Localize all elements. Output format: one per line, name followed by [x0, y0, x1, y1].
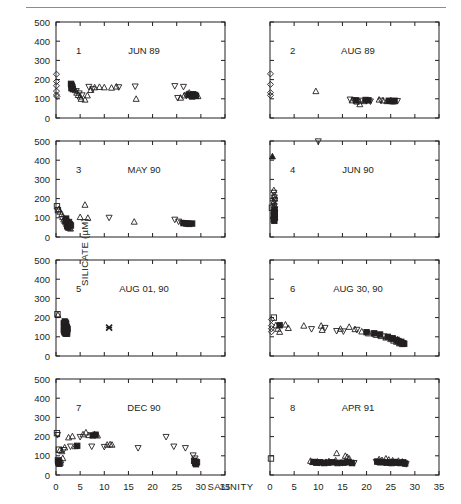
data-point-marker [135, 446, 141, 452]
data-point-marker [106, 325, 112, 331]
y-tick-label: 0 [45, 232, 50, 243]
y-tick-label: 200 [34, 312, 50, 323]
data-point-marker [309, 327, 315, 333]
panel-frame [270, 141, 439, 237]
data-point-marker [93, 432, 98, 437]
y-tick-label: 0 [45, 113, 50, 124]
y-tick-label: 300 [34, 55, 50, 66]
panel-title: DEC 90 [127, 402, 160, 413]
y-axis-title: SILICATE (µM) [79, 152, 90, 352]
data-point-marker [132, 84, 138, 90]
data-point-marker [268, 456, 273, 461]
panel-number: 8 [290, 402, 295, 413]
data-point-marker [182, 446, 188, 452]
data-point-marker [353, 98, 358, 103]
panel-title: JUN 90 [342, 164, 374, 175]
panel-number: 4 [290, 164, 295, 175]
data-point-marker [180, 84, 186, 90]
data-point-marker [101, 84, 107, 90]
data-point-marker [285, 325, 291, 331]
panel-title: JUN 89 [128, 45, 160, 56]
data-point-marker [372, 331, 377, 336]
data-point-marker [301, 323, 307, 329]
data-point-marker [68, 223, 73, 228]
data-point-marker [277, 323, 282, 328]
panel-frame [270, 260, 439, 356]
data-point-marker [394, 337, 399, 342]
y-tick-label: 300 [34, 293, 50, 304]
data-point-marker [364, 329, 369, 334]
data-point-marker [63, 216, 68, 221]
panel-title: AUG 30, 90 [333, 283, 383, 294]
y-tick-label: 200 [34, 193, 50, 204]
data-point-marker [403, 461, 408, 466]
y-tick-label: 0 [45, 351, 50, 362]
panel-2: 2AUG 89 [267, 22, 439, 118]
panel-title: MAY 90 [128, 164, 161, 175]
y-tick-label: 200 [34, 74, 50, 85]
silicate-salinity-figure: SILICATE (µM) SALINITY 01002003004005001… [0, 0, 461, 504]
data-point-marker [272, 218, 277, 223]
data-point-marker [194, 460, 199, 465]
data-point-marker [106, 215, 112, 221]
y-tick-label: 300 [34, 174, 50, 185]
panel-8: 051015202530358APR 91 [267, 379, 444, 492]
data-point-marker [271, 211, 276, 216]
y-tick-label: 400 [34, 36, 50, 47]
data-point-marker [62, 319, 67, 324]
y-tick-label: 100 [34, 93, 50, 104]
panel-7: 0510152025303501002003004005007DEC 90 [34, 374, 230, 493]
panel-number: 7 [76, 402, 81, 413]
y-tick-label: 100 [34, 212, 50, 223]
y-tick-label: 200 [34, 431, 50, 442]
panel-number: 6 [290, 283, 295, 294]
y-tick-label: 500 [34, 17, 50, 28]
panel-number: 2 [290, 45, 295, 56]
panel-4: 4JUN 90 [269, 139, 439, 237]
data-point-marker [163, 434, 169, 440]
data-point-marker [75, 443, 80, 448]
panel-6: 6AUG 30, 90 [268, 260, 439, 356]
y-tick-label: 400 [34, 155, 50, 166]
data-point-marker [335, 460, 340, 465]
y-tick-label: 100 [34, 450, 50, 461]
panel-3: 01002003004005003MAY 90 [34, 136, 225, 243]
data-point-marker [334, 450, 340, 456]
data-point-marker [69, 433, 75, 439]
panel-frame [56, 22, 225, 118]
data-point-marker [366, 98, 371, 103]
data-point-marker [64, 330, 69, 335]
data-point-marker [133, 96, 139, 102]
y-tick-label: 500 [34, 136, 50, 147]
y-tick-label: 300 [34, 412, 50, 423]
panel-1: 01002003004005001JUN 89 [34, 17, 225, 124]
data-point-marker [349, 460, 354, 465]
data-point-marker [313, 88, 319, 94]
y-tick-label: 500 [34, 374, 50, 385]
y-tick-label: 400 [34, 393, 50, 404]
panel-number: 1 [76, 45, 81, 56]
y-tick-label: 0 [45, 470, 50, 481]
data-point-marker [172, 84, 178, 90]
data-point-marker [131, 219, 137, 225]
data-point-marker [89, 444, 95, 450]
data-point-marker [171, 444, 177, 450]
y-tick-label: 500 [34, 255, 50, 266]
panel-title: AUG 89 [341, 45, 375, 56]
plot-canvas: 01002003004005001JUN 892AUG 890100200300… [0, 0, 461, 504]
y-tick-label: 400 [34, 274, 50, 285]
data-point-marker [402, 341, 407, 346]
panel-title: AUG 01, 90 [119, 283, 169, 294]
panel-title: APR 91 [342, 402, 375, 413]
x-axis-title: SALINITY [0, 481, 461, 492]
data-point-marker [392, 98, 397, 103]
panel-5: 01002003004005005AUG 01, 90 [34, 255, 225, 362]
data-point-marker [56, 460, 61, 465]
y-tick-label: 100 [34, 331, 50, 342]
data-point-marker [377, 332, 382, 337]
